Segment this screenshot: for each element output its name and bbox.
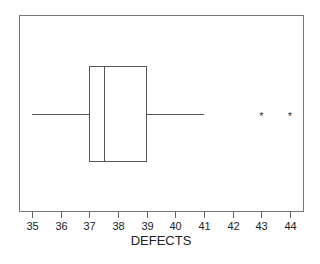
outlier-marker: * <box>288 110 293 122</box>
x-axis-ticks: 35363738394041424344 <box>26 212 296 233</box>
x-tick-label: 37 <box>83 220 95 232</box>
box-plot-chart: ** 35363738394041424344 DEFECTS <box>0 0 320 264</box>
x-tick-label: 40 <box>169 220 181 232</box>
x-tick-label: 36 <box>55 220 67 232</box>
iqr-box <box>90 67 147 162</box>
x-tick-label: 43 <box>255 220 267 232</box>
x-tick-label: 44 <box>284 220 296 232</box>
box-plot: ** <box>32 67 293 162</box>
x-tick-label: 38 <box>112 220 124 232</box>
x-tick-label: 39 <box>141 220 153 232</box>
outlier-marker: * <box>259 110 264 122</box>
x-tick-label: 35 <box>26 220 38 232</box>
x-tick-label: 41 <box>198 220 210 232</box>
x-tick-label: 42 <box>227 220 239 232</box>
x-axis-title: DEFECTS <box>131 233 192 248</box>
